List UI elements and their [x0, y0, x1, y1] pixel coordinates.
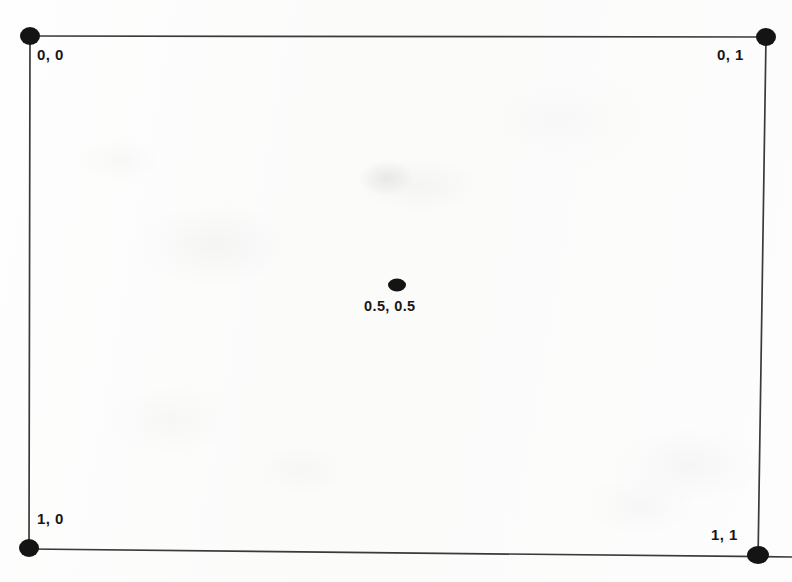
corner-and-center-dots: [19, 27, 776, 564]
right-edge-line: [758, 37, 766, 561]
top-right-corner-dot: [756, 28, 776, 46]
bottom-left-corner-dot: [19, 539, 39, 557]
top-left-coordinate-label: 0, 0: [37, 47, 64, 62]
figure-canvas: 0, 0 0, 1 1, 0 1, 1 0.5, 0.5: [0, 0, 792, 582]
bottom-edge-line: [29, 549, 792, 557]
bottom-right-coordinate-label: 1, 1: [711, 527, 738, 542]
top-right-coordinate-label: 0, 1: [717, 47, 744, 62]
center-coordinate-label: 0.5, 0.5: [364, 299, 416, 314]
top-left-corner-dot: [20, 27, 40, 45]
left-edge-line: [29, 36, 30, 548]
coordinate-rectangle-diagram: [0, 0, 792, 582]
top-edge-line: [30, 36, 766, 37]
center-point-dot: [388, 279, 406, 292]
bottom-left-coordinate-label: 1, 0: [37, 511, 64, 526]
bottom-right-corner-dot: [747, 546, 769, 564]
